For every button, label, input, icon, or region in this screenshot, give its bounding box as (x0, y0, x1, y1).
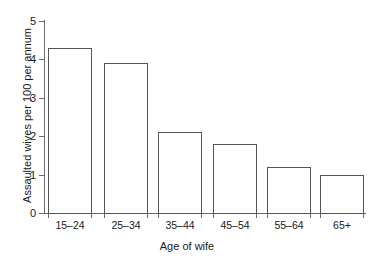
x-tick-mark-7 (256, 214, 257, 218)
x-tick-label-15-24: 15–24 (40, 219, 100, 231)
x-tick-mark-6 (213, 214, 214, 218)
x-tick-mark-5 (201, 214, 202, 218)
x-tick-mark-10 (320, 214, 321, 218)
x-axis-title: Age of wife (0, 240, 374, 253)
x-tick-label-55-64: 55–64 (259, 219, 319, 231)
x-tick-label-25-34: 25–34 (96, 219, 156, 231)
x-tick-mark-8 (267, 214, 268, 218)
x-axis-line (44, 213, 366, 214)
x-tick-mark-9 (310, 214, 311, 218)
x-tick-label-35-44: 35–44 (150, 219, 210, 231)
x-tick-label-65-plus: 65+ (312, 219, 372, 231)
y-tick-mark-1 (39, 175, 44, 176)
bar-15-24 (48, 48, 92, 214)
y-tick-mark-2 (39, 136, 44, 137)
bar-45-54 (213, 144, 257, 214)
y-axis-line (44, 20, 45, 214)
x-tick-mark-3 (147, 214, 148, 218)
y-tick-mark-4 (39, 59, 44, 60)
x-tick-mark-11 (363, 214, 364, 218)
bar-35-44 (158, 132, 202, 214)
y-axis-title: Assaulted wives per 100 per annum (21, 12, 34, 220)
bar-55-64 (267, 167, 311, 214)
bar-chart: 0 1 2 3 4 5 15–24 25–34 35–44 45–54 55–6… (0, 0, 374, 266)
x-tick-mark-0 (48, 214, 49, 218)
y-tick-mark-0 (39, 213, 44, 214)
bar-65-plus (320, 175, 364, 214)
x-tick-label-45-54: 45–54 (205, 219, 265, 231)
x-tick-mark-1 (91, 214, 92, 218)
x-tick-mark-4 (158, 214, 159, 218)
y-tick-mark-3 (39, 98, 44, 99)
x-tick-mark-2 (104, 214, 105, 218)
y-tick-mark-5 (39, 21, 44, 22)
bar-25-34 (104, 63, 148, 214)
